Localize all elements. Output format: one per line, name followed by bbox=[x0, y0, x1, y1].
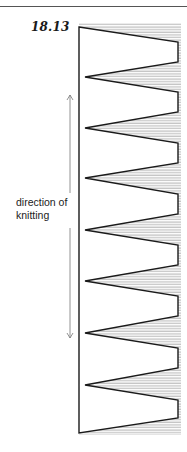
direction-arrow bbox=[67, 95, 73, 338]
knitting-diagram bbox=[0, 0, 187, 452]
direction-caption: direction of knitting bbox=[16, 196, 67, 222]
caption-line-2: knitting bbox=[16, 209, 67, 222]
caption-line-1: direction of bbox=[16, 196, 67, 209]
